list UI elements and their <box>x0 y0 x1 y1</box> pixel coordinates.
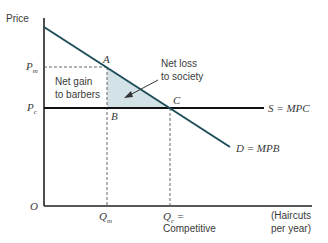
demand-label: D = MPB <box>236 142 279 154</box>
net-gain-label-2: to barbers <box>55 89 100 101</box>
origin-label: O <box>30 200 38 212</box>
net-loss-label-2: to society <box>161 71 203 83</box>
qm-label: Qm <box>99 210 112 225</box>
point-a-label: A <box>103 53 110 65</box>
diagram-canvas <box>0 0 328 243</box>
point-c-label: C <box>173 94 180 106</box>
qc-note: Competitive <box>163 223 216 235</box>
x-axis-label-1: (Haircuts <box>271 210 311 222</box>
x-axis-label-2: per year) <box>271 223 311 235</box>
supply-label: S = MPC <box>268 102 310 114</box>
pc-label: Pc <box>27 101 37 116</box>
point-b-label: B <box>111 110 118 122</box>
net-loss-label-1: Net loss <box>161 58 197 70</box>
y-axis-label: Price <box>6 13 29 25</box>
net-gain-label-1: Net gain <box>55 76 92 88</box>
pm-label: Pm <box>26 60 38 75</box>
